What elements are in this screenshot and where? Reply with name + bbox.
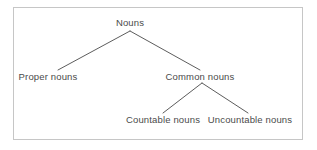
edge-nouns-to-common-nouns [130,31,200,70]
tree-node-countable-nouns: Countable nouns [126,114,200,125]
edge-common-nouns-to-uncountable-nouns [202,83,248,113]
tree-node-common-nouns: Common nouns [166,71,235,82]
edge-nouns-to-proper-nouns [58,31,130,70]
edge-common-nouns-to-countable-nouns [163,83,202,113]
diagram-page: Nouns Proper nouns Common nouns Countabl… [0,0,317,150]
tree-node-proper-nouns: Proper nouns [19,71,78,82]
tree-node-nouns: Nouns [116,17,144,28]
tree-node-uncountable-nouns: Uncountable nouns [208,114,292,125]
